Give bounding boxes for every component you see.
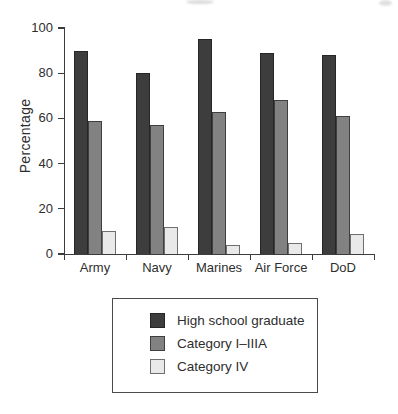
bar-dod-series1 — [322, 55, 336, 254]
x-axis-tick — [188, 255, 189, 260]
x-category-label: Army — [64, 261, 126, 275]
scan-artifact — [379, 0, 392, 6]
legend-swatch-icon — [150, 359, 165, 374]
bar-air-force-series1 — [260, 53, 274, 254]
bar-air-force-series2 — [274, 100, 288, 254]
legend-label: Category IV — [177, 359, 248, 374]
y-axis-tick — [58, 118, 64, 119]
bar-navy-series2 — [150, 125, 164, 254]
y-tick-label: 20 — [19, 202, 53, 216]
legend-box: High school graduateCategory I–IIIACateg… — [112, 298, 318, 393]
x-category-label: Marines — [188, 261, 250, 275]
y-axis-tick — [58, 73, 64, 74]
bar-army-series1 — [74, 51, 88, 254]
bar-marines-series1 — [198, 39, 212, 254]
x-axis-tick — [312, 255, 313, 260]
y-tick-label: 40 — [19, 157, 53, 171]
legend-swatch-icon — [150, 313, 165, 328]
legend-item: Category I–IIIA — [150, 336, 317, 351]
bar-dod-series2 — [336, 116, 350, 254]
x-category-label: Navy — [126, 261, 188, 275]
x-category-label: Air Force — [250, 261, 312, 275]
bar-air-force-series3 — [288, 243, 302, 254]
legend-label: Category I–IIIA — [177, 336, 267, 351]
y-tick-label: 100 — [19, 21, 53, 35]
y-axis-tick — [58, 208, 64, 209]
y-axis-tick — [58, 27, 64, 28]
bar-army-series2 — [88, 121, 102, 254]
x-axis-tick — [64, 255, 65, 260]
bar-marines-series2 — [212, 112, 226, 254]
bar-navy-series1 — [136, 73, 150, 254]
y-tick-label: 60 — [19, 111, 53, 125]
legend-item: High school graduate — [150, 313, 317, 328]
legend-label: High school graduate — [177, 313, 305, 328]
legend-swatch-icon — [150, 336, 165, 351]
bar-dod-series3 — [350, 234, 364, 254]
x-axis-tick — [374, 255, 375, 260]
scan-artifact — [186, 0, 214, 4]
bar-navy-series3 — [164, 227, 178, 254]
y-tick-label: 0 — [19, 247, 53, 261]
bar-army-series3 — [102, 231, 116, 254]
legend-item: Category IV — [150, 359, 317, 374]
y-tick-label: 80 — [19, 66, 53, 80]
x-category-label: DoD — [312, 261, 374, 275]
y-axis-tick — [58, 163, 64, 164]
x-axis-tick — [126, 255, 127, 260]
bar-chart: Percentage 020406080100ArmyNavyMarinesAi… — [0, 0, 398, 414]
bar-marines-series3 — [226, 245, 240, 254]
x-axis-tick — [250, 255, 251, 260]
